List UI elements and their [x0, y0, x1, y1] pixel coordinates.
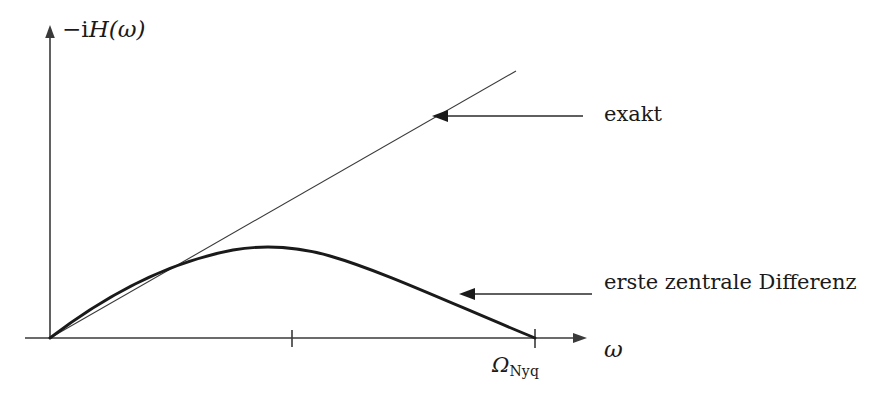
y-axis-label-prefix: −i	[62, 16, 89, 42]
y-axis-arrowhead-icon	[45, 25, 55, 38]
leader-exakt	[432, 110, 583, 122]
x-axis-label: ω	[604, 338, 623, 361]
leader-exakt-arrowhead-icon	[432, 110, 448, 122]
leader-zentrale-differenz	[459, 288, 592, 300]
annotation-erste-zentrale-differenz: erste zentrale Differenz	[604, 272, 857, 293]
x-axis-arrowhead-icon	[573, 333, 587, 343]
nyquist-symbol: Ω	[492, 353, 509, 377]
y-axis-label-function: H	[89, 16, 109, 42]
series-erste-zentrale-differenz-curve	[50, 247, 535, 338]
leader-zentrale-differenz-arrowhead-icon	[459, 288, 475, 300]
x-tick-label-nyquist: ΩNyq	[492, 355, 539, 378]
x-axis	[25, 333, 587, 343]
figure-canvas: −iH(ω) ω ΩNyq exakt erste zentrale Diffe…	[0, 0, 887, 411]
y-axis-label-argument: (ω)	[109, 16, 146, 42]
annotation-exakt: exakt	[604, 104, 662, 125]
plot-svg	[0, 0, 887, 411]
y-axis-label: −iH(ω)	[62, 18, 145, 41]
y-axis	[45, 25, 55, 338]
nyquist-subscript: Nyq	[509, 363, 539, 379]
